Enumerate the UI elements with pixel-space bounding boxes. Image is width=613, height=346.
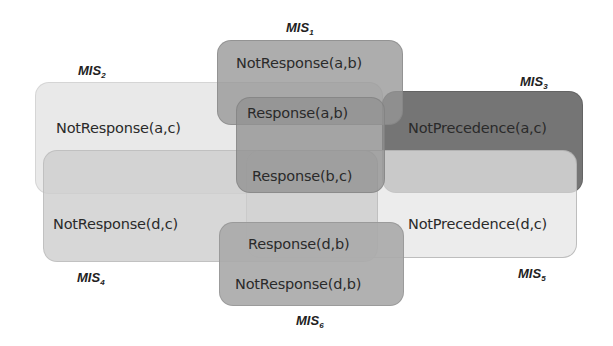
constraint-not-response-db: NotResponse(d,b) bbox=[235, 276, 361, 292]
mis6-label: MIS6 bbox=[296, 313, 324, 330]
constraint-response-db: Response(d,b) bbox=[248, 236, 349, 252]
constraint-not-response-ab: NotResponse(a,b) bbox=[236, 55, 362, 71]
mis6-set-region bbox=[219, 222, 404, 306]
constraint-not-precedence-ac: NotPrecedence(a,c) bbox=[408, 120, 547, 136]
mis1-label: MIS1 bbox=[286, 20, 314, 37]
mis5-label: MIS5 bbox=[518, 266, 546, 283]
constraint-not-response-ac: NotResponse(a,c) bbox=[56, 120, 181, 136]
mis3-label: MIS3 bbox=[520, 74, 548, 91]
mis2-label: MIS2 bbox=[78, 63, 106, 80]
constraint-not-precedence-dc: NotPrecedence(d,c) bbox=[408, 216, 547, 232]
constraint-not-response-dc: NotResponse(d,c) bbox=[53, 216, 178, 232]
constraint-response-ab: Response(a,b) bbox=[247, 105, 348, 121]
constraint-response-bc: Response(b,c) bbox=[252, 168, 352, 184]
mis4-label: MIS4 bbox=[77, 270, 105, 287]
